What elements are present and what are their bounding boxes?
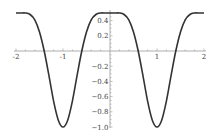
x-tick-label: 1 bbox=[155, 53, 159, 61]
y-tick-label: −0.8 bbox=[92, 108, 109, 116]
y-tick-label: 0.2 bbox=[97, 32, 108, 40]
y-tick-label: −0.2 bbox=[92, 63, 109, 71]
x-tick-label: -1 bbox=[60, 53, 67, 61]
y-tick-label: 0.4 bbox=[97, 17, 109, 25]
y-tick-label: −0.4 bbox=[92, 78, 110, 86]
y-tick-label: −1.0 bbox=[92, 124, 109, 132]
x-tick-label: 2 bbox=[202, 53, 206, 61]
y-tick-label: −0.6 bbox=[92, 93, 110, 101]
y-ticks: 0.40.2−0.2−0.4−0.6−0.8−1.0 bbox=[92, 17, 110, 131]
x-tick-label: -2 bbox=[13, 53, 20, 61]
line-chart: -2-112 0.40.2−0.2−0.4−0.6−0.8−1.0 bbox=[0, 0, 216, 138]
axes bbox=[14, 10, 206, 128]
x-ticks: -2-112 bbox=[13, 53, 207, 61]
